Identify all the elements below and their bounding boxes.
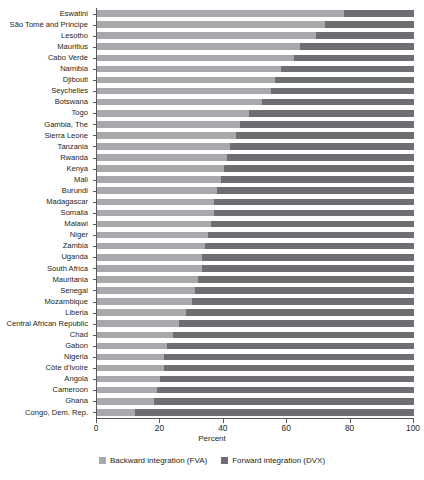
- bar-segment-backward-fva: [97, 165, 224, 172]
- category-label: Mauritania: [0, 274, 92, 285]
- stacked-bar: [97, 99, 414, 106]
- stacked-bar: [97, 43, 414, 50]
- bar-row[interactable]: [97, 363, 414, 374]
- bar-segment-backward-fva: [97, 276, 198, 283]
- bar-row[interactable]: [97, 274, 414, 285]
- bar-series-container: [97, 8, 414, 418]
- bar-segment-forward-dvx: [230, 143, 414, 150]
- bar-segment-backward-fva: [97, 298, 192, 305]
- stacked-bar: [97, 387, 414, 394]
- bar-segment-forward-dvx: [164, 354, 414, 361]
- category-label: Zambia: [0, 241, 92, 252]
- bar-segment-backward-fva: [97, 110, 249, 117]
- bar-segment-forward-dvx: [179, 320, 414, 327]
- bar-segment-forward-dvx: [202, 254, 414, 261]
- category-label: Mali: [0, 174, 92, 185]
- bar-segment-backward-fva: [97, 43, 300, 50]
- bar-row[interactable]: [97, 307, 414, 318]
- bar-segment-backward-fva: [97, 398, 154, 405]
- stacked-bar: [97, 365, 414, 372]
- bar-row[interactable]: [97, 163, 414, 174]
- bar-row[interactable]: [97, 252, 414, 263]
- bar-row[interactable]: [97, 318, 414, 329]
- x-axis-tick-label: 40: [218, 424, 227, 432]
- bar-segment-forward-dvx: [249, 110, 414, 117]
- bar-row[interactable]: [97, 207, 414, 218]
- bar-segment-forward-dvx: [205, 243, 414, 250]
- bar-row[interactable]: [97, 396, 414, 407]
- stacked-bar: [97, 221, 414, 228]
- bar-row[interactable]: [97, 285, 414, 296]
- bar-row[interactable]: [97, 41, 414, 52]
- bar-segment-forward-dvx: [300, 43, 414, 50]
- x-axis-title: Percent: [0, 434, 424, 443]
- bar-segment-forward-dvx: [262, 99, 414, 106]
- stacked-bar: [97, 143, 414, 150]
- bar-row[interactable]: [97, 30, 414, 41]
- bar-segment-forward-dvx: [221, 176, 414, 183]
- bar-segment-forward-dvx: [164, 365, 414, 372]
- stacked-bar: [97, 354, 414, 361]
- bar-row[interactable]: [97, 185, 414, 196]
- stacked-bar: [97, 176, 414, 183]
- bar-row[interactable]: [97, 374, 414, 385]
- bar-row[interactable]: [97, 340, 414, 351]
- category-label: South Africa: [0, 263, 92, 274]
- bar-segment-backward-fva: [97, 409, 135, 416]
- bar-segment-backward-fva: [97, 287, 195, 294]
- bar-row[interactable]: [97, 19, 414, 30]
- bar-row[interactable]: [97, 196, 414, 207]
- category-label: Uganda: [0, 252, 92, 263]
- bar-row[interactable]: [97, 263, 414, 274]
- bar-segment-forward-dvx: [224, 165, 414, 172]
- bar-row[interactable]: [97, 230, 414, 241]
- x-axis-tick-label: 20: [155, 424, 164, 432]
- bar-row[interactable]: [97, 329, 414, 340]
- bar-row[interactable]: [97, 296, 414, 307]
- bar-row[interactable]: [97, 130, 414, 141]
- bar-row[interactable]: [97, 97, 414, 108]
- bar-segment-backward-fva: [97, 99, 262, 106]
- legend-item-backward-integration[interactable]: Backward integration (FVA): [99, 456, 207, 465]
- category-label: Malawi: [0, 218, 92, 229]
- stacked-bar: [97, 132, 414, 139]
- y-axis-category-labels: EswatiniSão Tomé and PrincipeLesothoMaur…: [0, 8, 92, 418]
- bar-segment-forward-dvx: [195, 287, 414, 294]
- bar-segment-backward-fva: [97, 176, 221, 183]
- bar-row[interactable]: [97, 152, 414, 163]
- bar-segment-backward-fva: [97, 265, 202, 272]
- bar-row[interactable]: [97, 385, 414, 396]
- category-label: Chad: [0, 329, 92, 340]
- bar-row[interactable]: [97, 218, 414, 229]
- legend-item-forward-integration[interactable]: Forward integration (DVX): [221, 456, 325, 465]
- bar-row[interactable]: [97, 407, 414, 418]
- bar-row[interactable]: [97, 86, 414, 97]
- bar-segment-forward-dvx: [236, 132, 414, 139]
- bar-row[interactable]: [97, 174, 414, 185]
- bar-segment-forward-dvx: [240, 121, 414, 128]
- category-label: Liberia: [0, 307, 92, 318]
- bar-segment-backward-fva: [97, 210, 214, 217]
- bar-segment-forward-dvx: [198, 276, 414, 283]
- bar-row[interactable]: [97, 241, 414, 252]
- bar-segment-backward-fva: [97, 332, 173, 339]
- bar-row[interactable]: [97, 52, 414, 63]
- stacked-bar: [97, 409, 414, 416]
- bar-row[interactable]: [97, 141, 414, 152]
- stacked-bar: [97, 110, 414, 117]
- bar-row[interactable]: [97, 108, 414, 119]
- category-label: São Tomé and Principe: [0, 19, 92, 30]
- stacked-bar: [97, 66, 414, 73]
- bar-row[interactable]: [97, 63, 414, 74]
- bar-segment-forward-dvx: [316, 32, 414, 39]
- bar-row[interactable]: [97, 119, 414, 130]
- bar-segment-backward-fva: [97, 187, 217, 194]
- x-axis-tick-label: 0: [94, 424, 99, 432]
- bar-segment-backward-fva: [97, 199, 214, 206]
- bar-segment-backward-fva: [97, 154, 227, 161]
- bar-segment-backward-fva: [97, 32, 316, 39]
- category-label: Ghana: [0, 396, 92, 407]
- bar-row[interactable]: [97, 8, 414, 19]
- bar-row[interactable]: [97, 74, 414, 85]
- bar-row[interactable]: [97, 351, 414, 362]
